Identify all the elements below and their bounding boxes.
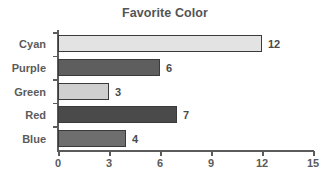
y-axis-tick xyxy=(53,32,58,34)
bar-value-label-purple: 6 xyxy=(166,63,172,74)
x-axis-tick xyxy=(313,151,315,156)
category-label-red: Red xyxy=(25,110,46,121)
x-axis-tick xyxy=(109,151,111,156)
category-label-purple: Purple xyxy=(12,63,46,74)
x-axis-tick xyxy=(58,151,60,156)
y-axis-tick xyxy=(53,79,58,81)
x-axis-tick-label: 3 xyxy=(106,158,112,169)
bar-blue[interactable] xyxy=(58,130,126,147)
bar-value-label-blue: 4 xyxy=(132,134,138,145)
bar-purple[interactable] xyxy=(58,59,160,76)
bar-row: 6 xyxy=(58,59,313,76)
category-label-green: Green xyxy=(14,87,46,98)
x-axis-tick xyxy=(262,151,264,156)
x-axis-tick-label: 0 xyxy=(55,158,61,169)
x-axis-tick-label: 9 xyxy=(208,158,214,169)
bar-row: 7 xyxy=(58,106,313,123)
plot-area: 126374 xyxy=(58,32,313,150)
category-label-blue: Blue xyxy=(22,134,46,145)
chart-title: Favorite Color xyxy=(0,6,330,20)
y-axis-tick xyxy=(53,103,58,105)
bar-value-label-cyan: 12 xyxy=(268,39,280,50)
bar-green[interactable] xyxy=(58,83,109,100)
bar-chart: Favorite Color CyanPurpleGreenRedBlue 12… xyxy=(0,0,330,177)
y-axis-tick xyxy=(53,126,58,128)
x-axis-line xyxy=(57,150,314,152)
bar-row: 12 xyxy=(58,35,313,52)
y-axis-tick xyxy=(53,56,58,58)
bar-value-label-red: 7 xyxy=(183,110,189,121)
x-axis-tick-label: 12 xyxy=(256,158,268,169)
bar-red[interactable] xyxy=(58,106,177,123)
x-axis-tick-label: 6 xyxy=(157,158,163,169)
bar-value-label-green: 3 xyxy=(115,87,121,98)
x-axis-tick-label: 15 xyxy=(307,158,319,169)
bar-row: 4 xyxy=(58,130,313,147)
x-axis-tick xyxy=(211,151,213,156)
bar-cyan[interactable] xyxy=(58,35,262,52)
bar-row: 3 xyxy=(58,83,313,100)
category-label-cyan: Cyan xyxy=(19,39,46,50)
x-axis-tick xyxy=(160,151,162,156)
y-axis-category-labels: CyanPurpleGreenRedBlue xyxy=(0,32,52,150)
